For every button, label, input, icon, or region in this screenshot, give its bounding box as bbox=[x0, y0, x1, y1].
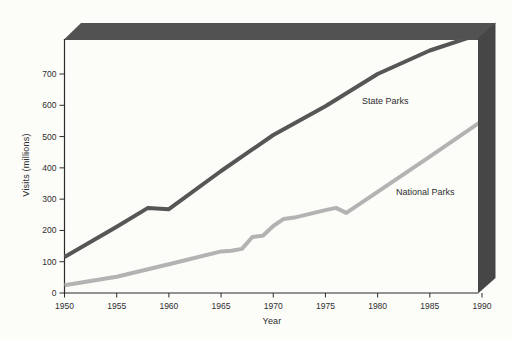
x-tick-label: 1970 bbox=[264, 301, 283, 311]
x-tick-label: 1950 bbox=[55, 301, 74, 311]
y-tick-label: 500 bbox=[42, 132, 56, 142]
y-tick-label: 300 bbox=[42, 194, 56, 204]
y-axis-title: Visits (millions) bbox=[21, 115, 31, 215]
frame-top-face bbox=[64, 23, 496, 40]
x-tick-label: 1985 bbox=[420, 301, 439, 311]
x-tick-label: 1980 bbox=[368, 301, 387, 311]
series-lines-group bbox=[65, 33, 483, 285]
state-parks-series-label: State Parks bbox=[362, 96, 409, 106]
x-tick-label: 1965 bbox=[212, 301, 231, 311]
y-ticks-group: 0100200300400500600700 bbox=[42, 69, 64, 298]
national-parks-series-label: National Parks bbox=[396, 187, 455, 197]
y-tick-label: 100 bbox=[42, 257, 56, 267]
frame-right-face bbox=[478, 23, 496, 294]
x-tick-label: 1990 bbox=[473, 301, 492, 311]
y-tick-label: 700 bbox=[42, 69, 56, 79]
y-tick-label: 400 bbox=[42, 163, 56, 173]
chart-canvas: 0100200300400500600700 19501955196019651… bbox=[0, 0, 512, 339]
state-parks-line bbox=[65, 33, 483, 257]
park-visits-chart: 0100200300400500600700 19501955196019651… bbox=[0, 0, 512, 339]
x-tick-label: 1955 bbox=[107, 301, 126, 311]
x-ticks-group: 195019551960196519701975198019851990 bbox=[55, 293, 492, 311]
x-axis-title: Year bbox=[232, 316, 312, 326]
x-tick-label: 1975 bbox=[316, 301, 335, 311]
y-tick-label: 0 bbox=[52, 288, 57, 298]
national-parks-line bbox=[65, 121, 483, 285]
y-tick-label: 200 bbox=[42, 225, 56, 235]
x-tick-label: 1960 bbox=[159, 301, 178, 311]
y-tick-label: 600 bbox=[42, 100, 56, 110]
